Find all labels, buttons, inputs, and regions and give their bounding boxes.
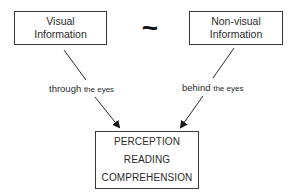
nonvisual-line-1: Non-visual [211,15,261,28]
nonvisual-information-box: Non-visual Information [189,11,283,45]
result-line-perception: PERCEPTION [114,133,180,151]
through-main: through [49,83,81,94]
visual-line-2: Information [34,28,87,41]
tilde-symbol: ~ [135,13,165,43]
arrow-left-lower [95,97,119,127]
visual-line-1: Visual [46,15,74,28]
through-the-eyes-label: through the eyes [49,83,114,94]
perception-reading-comprehension-box: PERCEPTION READING COMPREHENSION [95,131,199,189]
arrow-right-lower [181,96,203,127]
result-line-reading: READING [124,151,170,169]
arrow-left-upper [64,50,86,80]
visual-information-box: Visual Information [14,11,107,45]
through-small: the eyes [84,85,114,94]
behind-main: behind [182,82,211,93]
nonvisual-line-2: Information [210,28,263,41]
behind-small: the eyes [213,84,243,93]
behind-the-eyes-label: behind the eyes [182,82,243,93]
result-line-comprehension: COMPREHENSION [102,169,193,187]
arrow-right-upper [213,48,234,78]
